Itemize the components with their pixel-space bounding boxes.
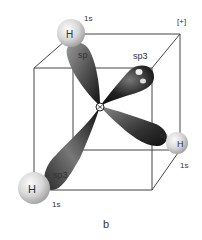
- sp-label-upper-left: sp: [78, 50, 88, 60]
- orbital-1s-label-lower-left: 1s: [52, 200, 60, 209]
- orbital-lobe-lower-right: [100, 106, 167, 146]
- sp3-orbital-diagram: H 1s sp sp3 [+] sp3 H 1s sp H 1s b: [0, 0, 202, 240]
- figure-caption: b: [103, 218, 109, 230]
- orbital-1s-label-right: 1s: [180, 161, 188, 170]
- highlight-spot: [140, 79, 146, 84]
- cube-edge-top-right: [152, 34, 180, 68]
- h-label-right: H: [177, 139, 184, 149]
- orbital-lobe-upper-right: [100, 66, 154, 106]
- highlight-spot: [136, 69, 143, 75]
- h-label-upper-left: H: [66, 29, 73, 40]
- sign-label: [+]: [177, 17, 186, 26]
- cube-edge-bottom-right: [152, 150, 180, 190]
- h-label-lower-left: H: [28, 183, 36, 195]
- orbital-1s-label-upper-left: 1s: [84, 14, 92, 23]
- sp3-label-lower-left: sp3: [53, 170, 68, 180]
- sp3-label-upper-right: sp3: [133, 51, 148, 61]
- sp-label-lower-right: sp: [160, 132, 168, 140]
